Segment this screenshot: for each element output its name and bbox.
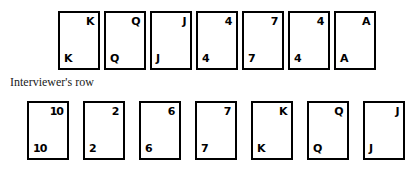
card-row-bottom: 10 10 2 2 6 6 7 7 K K Q Q J J bbox=[27, 101, 405, 160]
card-rank-top-right: Q bbox=[131, 16, 140, 27]
playing-card[interactable]: J J bbox=[363, 101, 405, 160]
card-rank-top-right: 7 bbox=[271, 16, 278, 27]
playing-card[interactable]: 2 2 bbox=[83, 101, 125, 160]
card-rank-bottom-left: 10 bbox=[33, 143, 46, 154]
card-rank-top-right: 7 bbox=[224, 106, 231, 117]
card-rank-top-right: K bbox=[279, 106, 287, 117]
card-rank-bottom-left: J bbox=[156, 53, 160, 64]
playing-card[interactable]: K K bbox=[58, 11, 100, 70]
card-rank-top-right: 2 bbox=[112, 106, 119, 117]
card-rank-bottom-left: 2 bbox=[89, 143, 96, 154]
card-rank-top-right: Q bbox=[334, 106, 343, 117]
playing-card[interactable]: 7 7 bbox=[242, 11, 284, 70]
playing-card[interactable]: Q Q bbox=[104, 11, 146, 70]
card-rank-bottom-left: J bbox=[369, 143, 373, 154]
card-rank-top-right: 4 bbox=[225, 16, 232, 27]
card-rank-bottom-left: Q bbox=[110, 53, 119, 64]
card-rank-top-right: 4 bbox=[317, 16, 324, 27]
card-rank-top-right: 10 bbox=[50, 106, 63, 117]
playing-card[interactable]: 7 7 bbox=[195, 101, 237, 160]
playing-card[interactable]: A A bbox=[334, 11, 376, 70]
playing-card[interactable]: 4 4 bbox=[196, 11, 238, 70]
playing-card[interactable]: J J bbox=[150, 11, 192, 70]
card-rank-bottom-left: 4 bbox=[202, 53, 209, 64]
card-rank-bottom-left: A bbox=[340, 53, 348, 64]
card-rank-bottom-left: 6 bbox=[145, 143, 152, 154]
card-rank-bottom-left: K bbox=[64, 53, 72, 64]
card-rank-bottom-left: 7 bbox=[248, 53, 255, 64]
playing-card[interactable]: 10 10 bbox=[27, 101, 69, 160]
card-rank-bottom-left: Q bbox=[313, 143, 322, 154]
card-rank-top-right: K bbox=[86, 16, 94, 27]
card-row-top: K K Q Q J J 4 4 7 7 4 4 A A bbox=[58, 11, 376, 70]
card-rank-top-right: 6 bbox=[168, 106, 175, 117]
playing-card[interactable]: Q Q bbox=[307, 101, 349, 160]
interviewer-row-label: Interviewer's row bbox=[10, 76, 94, 88]
card-rank-bottom-left: K bbox=[257, 143, 265, 154]
card-rank-top-right: J bbox=[182, 16, 186, 27]
card-rank-bottom-left: 4 bbox=[294, 53, 301, 64]
playing-card[interactable]: K K bbox=[251, 101, 293, 160]
playing-card[interactable]: 6 6 bbox=[139, 101, 181, 160]
card-rank-top-right: A bbox=[362, 16, 370, 27]
playing-card[interactable]: 4 4 bbox=[288, 11, 330, 70]
card-rank-bottom-left: 7 bbox=[201, 143, 208, 154]
card-rank-top-right: J bbox=[395, 106, 399, 117]
playing-card-diagram: K K Q Q J J 4 4 7 7 4 4 A A Interviewer'… bbox=[0, 0, 414, 172]
